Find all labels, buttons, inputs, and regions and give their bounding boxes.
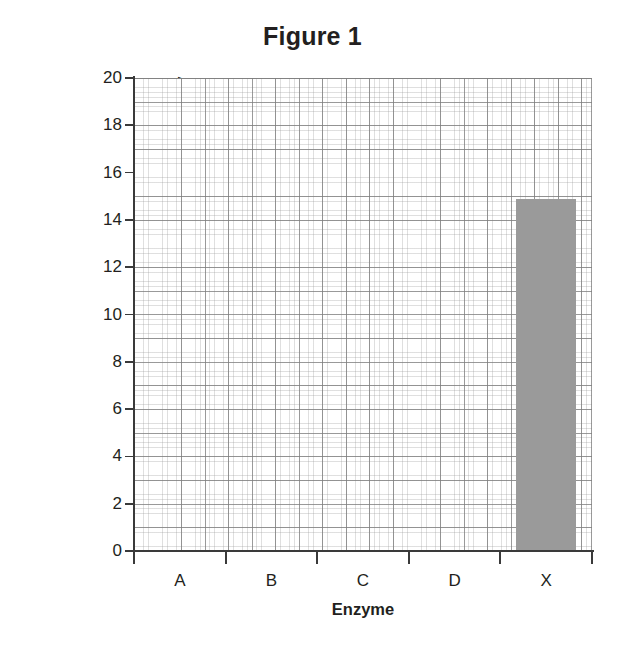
y-axis-tick — [125, 503, 134, 505]
y-axis-tick — [125, 266, 134, 268]
plot-area — [134, 78, 592, 551]
bars-layer — [134, 78, 592, 551]
y-axis-tick-label: 16 — [88, 164, 122, 181]
x-axis-category-label: C — [333, 570, 393, 592]
x-axis-tick — [316, 552, 318, 564]
y-axis-tick-label: 6 — [88, 400, 122, 417]
y-axis-tick-label: 20 — [88, 69, 122, 86]
y-axis-tick-label: 4 — [88, 447, 122, 464]
y-axis-tick — [125, 361, 134, 363]
x-axis-category-label: B — [241, 570, 301, 592]
figure-root: Figure 1 Time Taken to Completely Digest… — [0, 0, 625, 671]
y-axis-tick-label-text: 0 — [92, 542, 122, 559]
y-axis-tick-label-text: 18 — [92, 116, 122, 133]
y-axis-tick — [125, 408, 134, 410]
y-axis-tick — [125, 124, 134, 126]
x-axis-tick — [133, 552, 135, 564]
y-axis-tick — [125, 172, 134, 174]
chart-title: Figure 1 — [0, 22, 625, 51]
x-axis-category-label: D — [425, 570, 485, 592]
x-axis-tick — [408, 552, 410, 564]
y-axis-tick-label: 14 — [88, 211, 122, 228]
y-axis-tick-label-text: 2 — [92, 495, 122, 512]
x-axis-tick — [225, 552, 227, 564]
y-axis-tick — [125, 77, 134, 79]
y-axis-tick-label-text: 12 — [92, 258, 122, 275]
y-axis-tick-label-text: 6 — [92, 400, 122, 417]
y-axis-tick-label-text: 4 — [92, 447, 122, 464]
y-axis-tick-label: 0 — [88, 542, 122, 559]
bar-x — [516, 199, 576, 551]
y-axis-tick — [125, 219, 134, 221]
y-axis-tick-label: 8 — [88, 353, 122, 370]
x-axis-tick — [499, 552, 501, 564]
y-axis-tick-label: 2 — [88, 495, 122, 512]
y-axis-tick-label: 18 — [88, 116, 122, 133]
x-axis-category-label: A — [150, 570, 210, 592]
y-axis-tick — [125, 456, 134, 458]
y-axis-tick — [125, 314, 134, 316]
y-axis-tick-label-text: 14 — [92, 211, 122, 228]
x-axis-tick — [591, 552, 593, 564]
x-axis-title: Enzyme — [134, 600, 592, 619]
y-axis-tick-label-text: 10 — [92, 306, 122, 323]
y-axis-tick-label: 10 — [88, 306, 122, 323]
x-axis-line — [133, 550, 594, 552]
y-axis-tick-label-text: 20 — [92, 69, 122, 86]
y-axis-tick-label: 12 — [88, 258, 122, 275]
y-axis-tick-label-text: 16 — [92, 164, 122, 181]
y-axis-tick-label-text: 8 — [92, 353, 122, 370]
x-axis-category-label: X — [516, 570, 576, 592]
